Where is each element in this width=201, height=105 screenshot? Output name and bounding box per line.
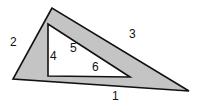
label-1: 1 [112,89,119,103]
label-5: 5 [70,41,77,55]
label-4: 4 [50,49,57,63]
label-2: 2 [10,35,17,49]
triangle-diagram: 1 2 3 4 5 6 [0,0,201,105]
label-6: 6 [92,60,99,74]
label-3: 3 [129,27,136,41]
outer-triangle-frame [13,8,189,91]
